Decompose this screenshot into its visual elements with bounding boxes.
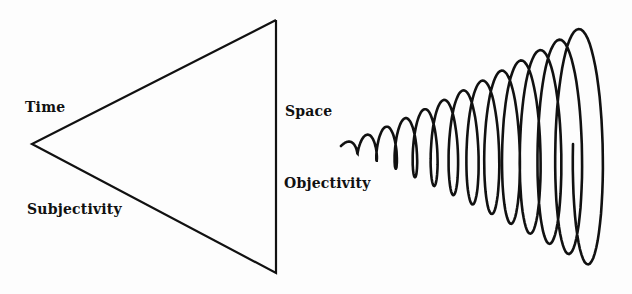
label-subjectivity: Subjectivity bbox=[27, 201, 122, 217]
diagram-graphics bbox=[0, 0, 632, 294]
label-time: Time bbox=[25, 99, 65, 115]
diagram-canvas: Time Subjectivity Space Objectivity bbox=[0, 0, 632, 294]
spiral-shape bbox=[341, 29, 603, 264]
label-objectivity: Objectivity bbox=[284, 175, 371, 191]
triangle-shape bbox=[32, 20, 276, 273]
label-space: Space bbox=[285, 103, 332, 119]
